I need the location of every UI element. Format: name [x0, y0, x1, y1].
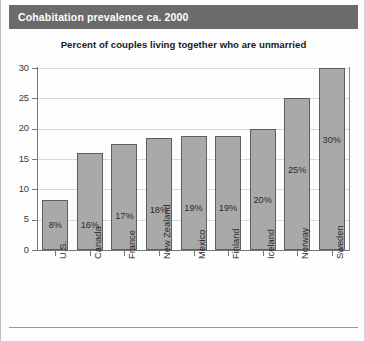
bar-value-label: 25%	[279, 166, 315, 175]
y-tick-mark	[32, 159, 37, 160]
bar-value-label: 30%	[314, 136, 350, 145]
bar-value-label: 17%	[106, 212, 142, 221]
bar-value-label: 19%	[176, 204, 212, 213]
x-category-label: France	[128, 230, 137, 259]
x-tick-mark	[332, 251, 333, 256]
y-tick-mark	[32, 68, 37, 69]
plot-right-border	[349, 67, 350, 251]
y-gridline	[38, 68, 349, 69]
x-category-label: Mexico	[198, 230, 207, 259]
y-tick-label: 30	[1, 64, 29, 73]
x-category-label: Canada	[94, 226, 103, 259]
chart-figure: Cohabitation prevalence ca. 2000 Percent…	[0, 0, 365, 341]
bar-value-label: 20%	[245, 196, 281, 205]
bar	[319, 68, 345, 250]
y-tick-mark	[32, 98, 37, 99]
x-category-label: Finland	[232, 229, 241, 260]
y-tick-label: 25	[1, 94, 29, 103]
y-tick-mark	[32, 250, 37, 251]
x-tick-mark	[194, 251, 195, 256]
x-category-label: New Zealand	[163, 204, 172, 259]
y-tick-mark	[32, 189, 37, 190]
x-category-label: Norway	[301, 227, 310, 259]
x-tick-mark	[159, 251, 160, 256]
x-category-label: Iceland	[267, 229, 276, 259]
x-tick-mark	[263, 251, 264, 256]
bar-value-label: 8%	[37, 221, 73, 230]
footer-divider	[9, 327, 358, 328]
y-tick-label: 10	[1, 185, 29, 194]
bar-value-label: 19%	[210, 204, 246, 213]
y-tick-label: 0	[1, 246, 29, 255]
x-category-label: U.S.	[59, 241, 68, 259]
y-tick-label: 5	[1, 215, 29, 224]
x-tick-mark	[124, 251, 125, 256]
x-tick-mark	[55, 251, 56, 256]
y-tick-label: 15	[1, 155, 29, 164]
y-tick-mark	[32, 220, 37, 221]
x-tick-mark	[228, 251, 229, 256]
x-category-label: Sweden	[336, 225, 345, 259]
x-tick-mark	[297, 251, 298, 256]
x-tick-mark	[90, 251, 91, 256]
y-tick-mark	[32, 129, 37, 130]
y-tick-label: 20	[1, 124, 29, 133]
plot-wrapper: 0510152025308%U.S.16%Canada17%France18%N…	[1, 0, 365, 341]
